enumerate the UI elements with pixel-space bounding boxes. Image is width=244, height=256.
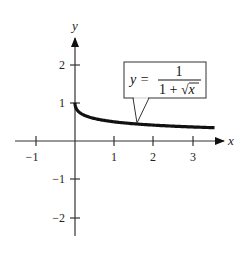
x-tick-label: 1 <box>111 150 117 164</box>
y-tick-label: −1 <box>52 172 65 186</box>
y-tick-label: 2 <box>59 58 65 72</box>
equation-denominator: 1 + √x <box>159 82 196 97</box>
y-tick-label: 1 <box>59 96 65 110</box>
x-axis-label: x <box>227 133 234 148</box>
x-tick-label: 3 <box>190 150 196 164</box>
callout-pointer <box>133 98 149 123</box>
y-tick-label: −2 <box>52 211 65 225</box>
equation-callout: y = 1 1 + √x <box>124 62 206 123</box>
equation-numerator: 1 <box>176 64 183 79</box>
x-tick-label: −1 <box>26 150 39 164</box>
function-graph: x y −1 1 2 3 2 1 −1 −2 y = 1 1 + √x <box>0 0 244 256</box>
x-tick-label: 2 <box>150 150 156 164</box>
equation-lhs: y = <box>128 72 149 87</box>
y-axis-label: y <box>70 18 78 33</box>
